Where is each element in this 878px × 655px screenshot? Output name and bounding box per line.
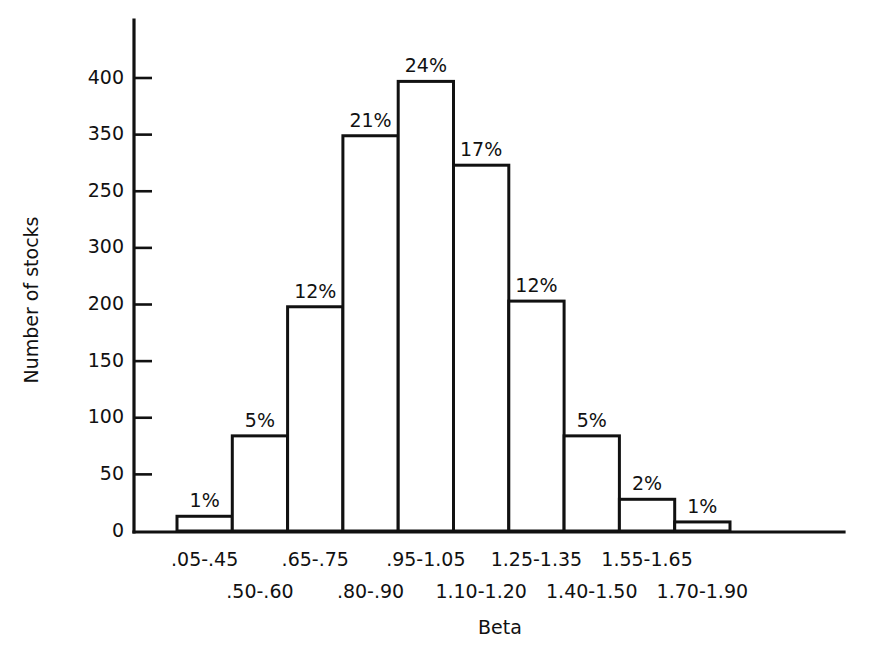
bar-percent-label: 1% (190, 489, 220, 511)
bar-percent-label: 12% (515, 274, 557, 296)
bar-percent-label: 5% (577, 409, 607, 431)
x-category-label: 1.55-1.65 (601, 548, 692, 570)
x-category-label: .50-.60 (226, 580, 293, 602)
y-tick-label-1: 50 (100, 462, 124, 484)
histogram-bar[interactable] (398, 81, 453, 531)
x-category-label: 1.40-1.50 (546, 580, 637, 602)
bar-percent-label: 21% (349, 109, 391, 131)
histogram-bar[interactable] (177, 516, 232, 531)
histogram-bar[interactable] (232, 436, 287, 531)
bar-percent-label: 2% (632, 472, 662, 494)
y-tick-label-6: 250 (88, 179, 124, 201)
bar-percent-label: 5% (245, 409, 275, 431)
x-category-label: .65-.75 (282, 548, 349, 570)
chart-container: 050100150200300250350400 Number of stock… (0, 0, 878, 655)
histogram-bar[interactable] (454, 165, 509, 531)
beta-distribution-histogram: 050100150200300250350400 Number of stock… (0, 0, 878, 655)
x-category-label: .80-.90 (337, 580, 404, 602)
x-axis: .05-.45.65-.75.95-1.051.25-1.351.55-1.65… (134, 532, 844, 638)
histogram-bar[interactable] (564, 436, 619, 531)
y-tick-label-0: 0 (112, 519, 124, 541)
y-axis-ticks (134, 78, 152, 474)
x-category-label: 1.70-1.90 (657, 580, 748, 602)
histogram-bar[interactable] (675, 522, 730, 531)
histogram-bar[interactable] (509, 301, 564, 531)
y-tick-label-5: 300 (88, 235, 124, 257)
x-category-label: 1.10-1.20 (435, 580, 526, 602)
y-tick-label-4: 200 (88, 292, 124, 314)
y-tick-label-2: 100 (88, 405, 124, 427)
y-axis-tick-labels: 050100150200300250350400 (88, 66, 124, 541)
x-category-label: .95-1.05 (386, 548, 465, 570)
bar-percent-label: 24% (405, 54, 447, 76)
y-axis-title: Number of stocks (20, 216, 42, 383)
x-axis-category-labels: .05-.45.65-.75.95-1.051.25-1.351.55-1.65… (171, 548, 748, 602)
histogram-bar[interactable] (619, 499, 674, 531)
y-tick-label-7: 350 (88, 122, 124, 144)
histogram-bar[interactable] (288, 307, 343, 531)
bar-percent-label: 12% (294, 280, 336, 302)
bar-percent-label: 17% (460, 138, 502, 160)
x-category-label: 1.25-1.35 (491, 548, 582, 570)
histogram-bars (177, 81, 730, 531)
bar-percent-label: 1% (687, 495, 717, 517)
histogram-bar[interactable] (343, 136, 398, 531)
x-category-label: .05-.45 (171, 548, 238, 570)
x-axis-title: Beta (478, 616, 522, 638)
y-tick-label-3: 150 (88, 349, 124, 371)
y-axis: 050100150200300250350400 Number of stock… (20, 20, 152, 541)
y-tick-label-8: 400 (88, 66, 124, 88)
